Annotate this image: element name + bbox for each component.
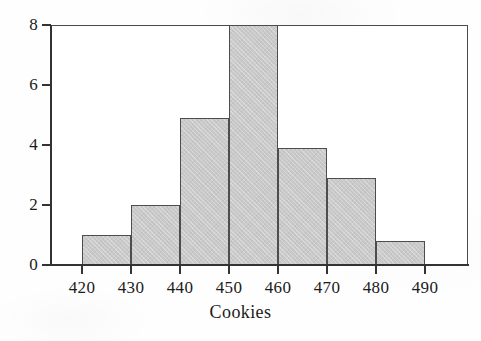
x-axis-tick-label: 420 [55, 278, 109, 297]
y-axis-tick-label: 0 [10, 256, 38, 273]
x-axis-tick-label: 460 [251, 278, 305, 297]
x-axis-tick-mark [277, 265, 279, 274]
x-axis-line [50, 264, 469, 266]
y-axis-tick-label: 4 [10, 136, 38, 153]
x-axis-tick-mark [130, 265, 132, 274]
y-axis-tick-label: 8 [10, 16, 38, 33]
histogram-bar [131, 205, 180, 265]
x-axis-tick-mark [179, 265, 181, 274]
y-axis-tick-mark [42, 24, 51, 26]
x-axis-tick-label: 480 [349, 278, 403, 297]
x-axis-tick-label: 470 [300, 278, 354, 297]
histogram-figure: 02468 420430440450460470480490 Cookies [0, 0, 481, 341]
x-axis-tick-label: 450 [202, 278, 256, 297]
y-axis-tick-mark [42, 144, 51, 146]
histogram-bar [376, 241, 425, 265]
y-axis-tick-label: 2 [10, 196, 38, 213]
histogram-bar [180, 118, 229, 265]
histogram-bar [278, 148, 327, 265]
y-axis-tick-mark [42, 204, 51, 206]
y-axis-tick-label: 6 [10, 76, 38, 93]
histogram-bar [229, 25, 278, 265]
x-axis-tick-label: 430 [104, 278, 158, 297]
x-axis-tick-mark [326, 265, 328, 274]
x-axis-tick-mark [424, 265, 426, 274]
x-axis-title: Cookies [0, 302, 481, 322]
x-axis-tick-mark [228, 265, 230, 274]
histogram-bar [82, 235, 131, 265]
y-axis-tick-mark [42, 264, 51, 266]
x-axis-tick-mark [81, 265, 83, 274]
x-axis-tick-mark [375, 265, 377, 274]
y-axis-tick-mark [42, 84, 51, 86]
histogram-bar [327, 178, 376, 265]
x-axis-tick-label: 490 [398, 278, 452, 297]
x-axis-tick-label: 440 [153, 278, 207, 297]
